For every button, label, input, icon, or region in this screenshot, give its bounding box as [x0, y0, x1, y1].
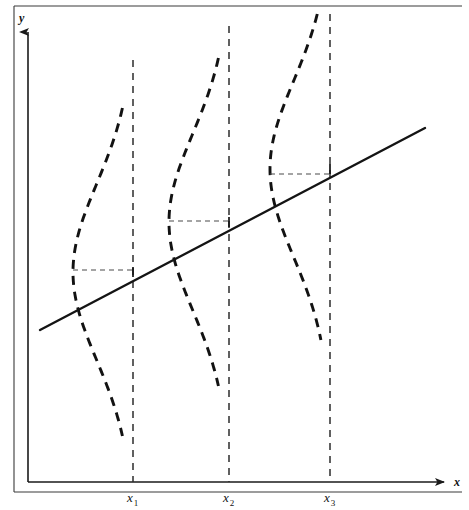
distribution-curve-x2: [169, 58, 218, 386]
distribution-curve-x3: [270, 14, 321, 340]
distribution-curve-x1: [73, 108, 122, 436]
x-tick-label-1: x1: [126, 490, 138, 508]
x-tick-label-subscript: 2: [230, 498, 235, 508]
x-tick-label-2: x2: [222, 490, 234, 508]
x-tick-label-base: x: [323, 490, 330, 505]
x-axis-label: x: [453, 475, 460, 489]
intersection-tickmarks: [133, 164, 330, 277]
x-tick-label-base: x: [222, 490, 229, 505]
horizontal-guide-lines: [73, 174, 330, 270]
x-tick-label-base: x: [126, 490, 133, 505]
x-tick-label-subscript: 1: [134, 498, 139, 508]
figure-canvas: y x x1x2x3: [0, 0, 469, 510]
distribution-curves: [73, 14, 321, 436]
x-tick-label-3: x3: [323, 490, 336, 508]
x-tick-labels: x1x2x3: [126, 490, 336, 508]
regression-distribution-figure: y x x1x2x3: [0, 0, 469, 510]
x-tick-label-subscript: 3: [331, 498, 336, 508]
figure-frame: [14, 6, 462, 492]
regression-line-group: [40, 128, 425, 330]
y-axis-label: y: [17, 11, 25, 25]
vertical-guide-lines: [133, 14, 330, 482]
